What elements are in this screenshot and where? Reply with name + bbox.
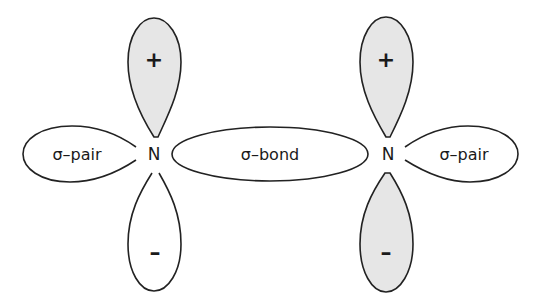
orbital-diagram: + – + – N N σ–pair σ–bond σ–pair [0,0,536,308]
left-upper-p-lobe [128,18,181,137]
left-sigma-pair-label: σ–pair [52,145,102,164]
sigma-bond-label: σ–bond [241,145,299,164]
right-sigma-pair-label: σ–pair [439,145,489,164]
left-upper-sign: + [145,47,163,72]
right-nitrogen-label: N [382,144,395,164]
left-lower-p-lobe [128,173,181,291]
right-upper-sign: + [377,47,395,72]
left-nitrogen-label: N [148,144,161,164]
right-lower-sign: – [381,240,392,265]
right-lower-p-lobe [360,173,413,292]
right-upper-p-lobe [360,17,413,137]
left-lower-sign: – [150,240,161,265]
